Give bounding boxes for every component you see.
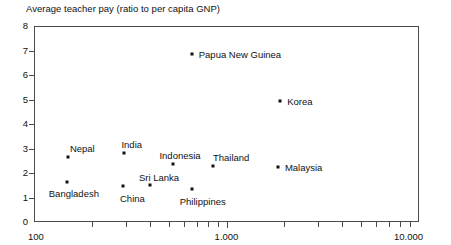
- y-axis-tick-mark: [29, 198, 34, 199]
- x-axis-minor-tick: [208, 222, 209, 227]
- x-axis-minor-tick: [126, 222, 127, 227]
- y-axis-tick-label: 4: [23, 119, 28, 129]
- x-axis-minor-tick: [318, 222, 319, 227]
- x-axis-minor-tick: [92, 222, 93, 227]
- data-point-marker: [148, 184, 151, 187]
- data-point-marker: [123, 152, 126, 155]
- data-point-label: Sri Lanka: [139, 173, 179, 183]
- data-point-marker: [279, 99, 282, 102]
- y-axis-tick-mark: [29, 149, 34, 150]
- x-axis-tick-label: 100: [28, 232, 44, 242]
- x-axis-minor-tick: [410, 222, 411, 227]
- data-point-marker: [172, 163, 175, 166]
- x-axis-tick-label: 1.000: [215, 232, 239, 242]
- data-point-label: Papua New Guinea: [199, 50, 281, 60]
- y-axis-tick-label: 1: [23, 193, 28, 203]
- x-axis-minor-tick: [400, 222, 401, 227]
- x-axis-tick-label: 10.000: [394, 232, 423, 242]
- data-point-label: Thailand: [213, 153, 249, 163]
- x-axis-minor-tick: [184, 222, 185, 227]
- data-point-label: Malaysia: [285, 163, 323, 173]
- data-point-marker: [190, 187, 193, 190]
- x-axis-minor-tick: [218, 222, 219, 227]
- y-axis-tick-label: 5: [23, 95, 28, 105]
- y-axis-tick-mark: [29, 100, 34, 101]
- y-axis-tick-mark: [29, 51, 34, 52]
- plot-area: 012345678 1001.00010.000 NepalBangladesh…: [34, 26, 419, 222]
- x-axis-minor-tick: [361, 222, 362, 227]
- y-axis-tick-label: 7: [23, 46, 28, 56]
- x-axis-minor-tick: [284, 222, 285, 227]
- data-point-label: Korea: [287, 97, 312, 107]
- data-point-marker: [122, 185, 125, 188]
- data-point-label: India: [121, 140, 142, 150]
- data-point-label: Philippines: [180, 197, 226, 207]
- data-point-label: Bangladesh: [49, 189, 99, 199]
- y-axis-tick-mark: [29, 173, 34, 174]
- teacher-pay-scatter-chart: Average teacher pay (ratio to per capita…: [0, 0, 451, 245]
- data-point-marker: [190, 53, 193, 56]
- x-axis-minor-tick: [376, 222, 377, 227]
- data-point-marker: [211, 164, 214, 167]
- x-axis-minor-tick: [169, 222, 170, 227]
- y-axis-tick-label: 3: [23, 144, 28, 154]
- y-axis-tick-label: 0: [23, 217, 28, 227]
- x-axis-major-tick: [227, 222, 228, 228]
- data-point-label: Nepal: [70, 144, 95, 154]
- data-point-marker: [66, 156, 69, 159]
- data-point-label: Indonesia: [159, 151, 200, 161]
- y-axis-tick-mark: [29, 124, 34, 125]
- x-axis-minor-tick: [150, 222, 151, 227]
- y-axis-tick-label: 2: [23, 168, 28, 178]
- x-axis-minor-tick: [197, 222, 198, 227]
- data-point-marker: [65, 180, 68, 183]
- data-point-marker: [276, 165, 279, 168]
- chart-title: Average teacher pay (ratio to per capita…: [26, 3, 220, 14]
- x-axis-minor-tick: [342, 222, 343, 227]
- y-axis-tick-label: 6: [23, 70, 28, 80]
- y-axis-tick-mark: [29, 75, 34, 76]
- x-axis-minor-tick: [389, 222, 390, 227]
- data-point-label: China: [120, 194, 145, 204]
- y-axis-tick-label: 8: [23, 21, 28, 31]
